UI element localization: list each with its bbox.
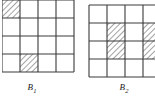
figure-label-b1-subscript: 1 xyxy=(33,87,36,94)
grid-svg-b2 xyxy=(88,4,155,84)
grid-diagram-b1 xyxy=(0,0,80,82)
shaded-cell-b1-r3c1 xyxy=(20,54,38,72)
figure-container: B1 xyxy=(0,0,155,96)
grid-lines-b2 xyxy=(89,5,155,77)
figure-label-b1: B1 xyxy=(0,83,64,94)
figure-label-b2: B2 xyxy=(92,83,155,94)
grid-diagram-b2 xyxy=(88,4,155,84)
shaded-cell-b2-r1c3 xyxy=(143,23,155,41)
grid-svg-b1 xyxy=(0,0,80,82)
shaded-cell-b2-r1c1 xyxy=(107,23,125,41)
shaded-cell-b1-r0c0 xyxy=(2,0,20,18)
figure-label-b2-subscript: 2 xyxy=(125,87,128,94)
shaded-cell-b2-r2c1 xyxy=(107,41,125,59)
shaded-cell-b2-r2c3 xyxy=(143,41,155,59)
